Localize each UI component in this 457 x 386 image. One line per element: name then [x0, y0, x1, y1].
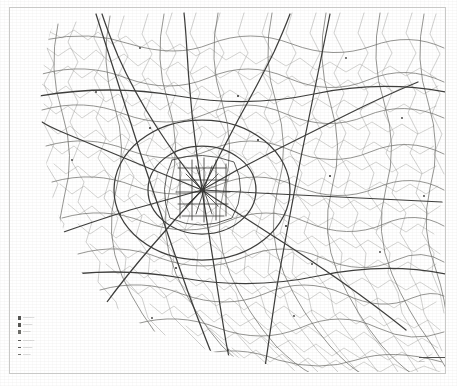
minor-lanes-layer — [42, 30, 440, 372]
map-sheet: ────── ───── ──── ────── ───── ─── — [0, 0, 457, 386]
legend-item[interactable]: ────── — [18, 338, 64, 343]
legend-item-label: ────── — [23, 316, 64, 320]
legend-item-label: ──── — [23, 330, 64, 334]
legend-item[interactable]: ────── — [18, 315, 64, 320]
legend-group-road-classes: ────── ───── ──── — [18, 315, 64, 334]
legend-item[interactable]: ───── — [18, 322, 64, 327]
legend-item-label: ────── — [23, 339, 64, 343]
legend-swatch-icon — [18, 316, 21, 320]
legend-item[interactable]: ──── — [18, 352, 64, 357]
legend-swatch-icon — [18, 340, 21, 341]
legend-item[interactable]: ───── — [18, 345, 64, 350]
road-network-map[interactable] — [0, 0, 457, 386]
map-legend[interactable]: ────── ───── ──── ────── ───── ─── — [18, 315, 64, 361]
legend-swatch-icon — [18, 347, 21, 348]
legend-item[interactable]: ──── — [18, 329, 64, 334]
scale-bar: —— — [419, 357, 449, 363]
legend-item-label: ───── — [23, 323, 64, 327]
legend-swatch-icon — [18, 323, 21, 327]
scale-bar-label: —— — [419, 359, 449, 363]
legend-swatch-icon — [18, 330, 21, 334]
legend-swatch-icon — [18, 354, 21, 355]
legend-item-label: ───── — [23, 346, 64, 350]
secondary-roads-layer — [42, 13, 448, 374]
legend-group-boundary-classes: ────── ───── ──── — [18, 338, 64, 357]
scale-bar-line — [419, 357, 445, 358]
legend-item-label: ──── — [23, 353, 64, 357]
